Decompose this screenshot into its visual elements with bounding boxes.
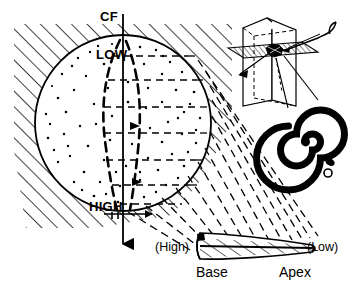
round-window: [324, 169, 332, 177]
box-left-face: [243, 22, 272, 106]
spiral-path: [257, 110, 345, 190]
cf-label: CF: [100, 9, 118, 24]
cochlea-spiral: [257, 110, 345, 190]
high-label: HIGH: [89, 199, 123, 214]
base-marker: [197, 233, 205, 241]
base-label: Base: [196, 264, 228, 280]
figure-container: CF LOW HIGH (High) (Low) Base Apex: [0, 0, 350, 289]
unrolled-cochlea-tube: [196, 230, 320, 262]
apex-label: Apex: [279, 264, 311, 280]
diagram-canvas: CF LOW HIGH (High) (Low) Base Apex: [0, 0, 350, 289]
low-label: LOW: [96, 47, 128, 62]
low-paren-label: (Low): [307, 240, 338, 254]
head-block-inset: [228, 18, 336, 108]
high-paren-label: (High): [155, 240, 189, 254]
